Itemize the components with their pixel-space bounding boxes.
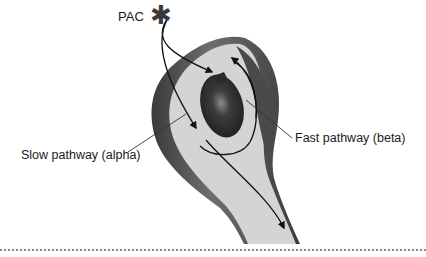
pac-label: PAC bbox=[118, 9, 144, 24]
light-band bbox=[169, 44, 296, 244]
dotted-divider bbox=[0, 249, 426, 251]
av-node-diagram bbox=[0, 0, 426, 257]
fast-pathway-label: Fast pathway (beta) bbox=[295, 131, 405, 145]
atrial-tissue-body bbox=[152, 37, 300, 244]
star-icon: ✱ bbox=[150, 2, 172, 28]
slow-pathway-label: Slow pathway (alpha) bbox=[21, 148, 141, 162]
